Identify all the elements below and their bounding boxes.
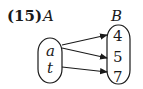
arrow-a-to-4 [62,35,107,45]
arrow-t-to-7 [62,67,107,72]
element-4: 4 [113,27,123,45]
mapping-diagram: (15) A B a t 4 5 7 [0,0,143,89]
set-a-name: A [41,7,54,25]
set-b-name: B [110,7,122,25]
element-a: a [46,42,55,60]
problem-number: (15) [7,7,42,25]
element-5: 5 [113,48,123,66]
arrow-a-to-5 [62,48,107,58]
element-t: t [47,59,54,77]
element-7: 7 [113,68,123,86]
